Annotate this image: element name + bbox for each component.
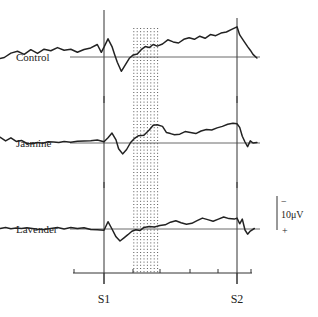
shade-dot bbox=[140, 118, 141, 119]
shade-dot bbox=[144, 150, 145, 151]
shade-dot bbox=[144, 201, 145, 202]
shade-dot bbox=[147, 92, 148, 93]
shade-dot bbox=[154, 127, 155, 128]
shade-dot bbox=[147, 79, 148, 80]
shade-dot bbox=[157, 134, 158, 135]
shade-dot bbox=[140, 98, 141, 99]
shade-dot bbox=[137, 162, 138, 163]
shade-dot bbox=[137, 194, 138, 195]
shade-dot bbox=[140, 172, 141, 173]
shade-dot bbox=[150, 217, 151, 218]
shade-dot bbox=[137, 76, 138, 77]
shade-dot bbox=[147, 220, 148, 221]
shade-dot bbox=[157, 38, 158, 39]
shade-dot bbox=[157, 169, 158, 170]
shade-dot bbox=[133, 207, 134, 208]
shade-dot bbox=[150, 89, 151, 90]
shade-dot bbox=[147, 271, 148, 272]
shade-dot bbox=[140, 66, 141, 67]
shade-dot bbox=[154, 150, 155, 151]
shade-dot bbox=[150, 66, 151, 67]
shade-dot bbox=[150, 246, 151, 247]
shade-dot bbox=[154, 185, 155, 186]
shade-dot bbox=[133, 252, 134, 253]
shade-dot bbox=[157, 89, 158, 90]
shade-dot bbox=[140, 134, 141, 135]
shade-dot bbox=[157, 41, 158, 42]
shade-dot bbox=[144, 214, 145, 215]
shade-dot bbox=[154, 204, 155, 205]
shade-dot bbox=[140, 239, 141, 240]
shade-dot bbox=[144, 172, 145, 173]
shade-dot bbox=[137, 265, 138, 266]
shade-dot bbox=[133, 255, 134, 256]
shade-dot bbox=[147, 169, 148, 170]
shade-dot bbox=[144, 28, 145, 29]
shade-dot bbox=[157, 98, 158, 99]
shade-dot bbox=[157, 95, 158, 96]
shade-dot bbox=[157, 140, 158, 141]
shade-dot bbox=[154, 230, 155, 231]
scale-bar-top-sign: − bbox=[281, 196, 287, 207]
shade-dot bbox=[157, 153, 158, 154]
shade-dot bbox=[144, 204, 145, 205]
shade-dot bbox=[147, 159, 148, 160]
shade-dot bbox=[154, 178, 155, 179]
shade-dot bbox=[147, 223, 148, 224]
shade-dot bbox=[157, 73, 158, 74]
shade-dot bbox=[144, 92, 145, 93]
shade-dot bbox=[150, 34, 151, 35]
shade-dot bbox=[147, 95, 148, 96]
shade-dot bbox=[144, 255, 145, 256]
shade-dot bbox=[154, 233, 155, 234]
shade-dot bbox=[137, 214, 138, 215]
shade-dot bbox=[154, 82, 155, 83]
shade-dot bbox=[147, 66, 148, 67]
shade-dot bbox=[150, 70, 151, 71]
shade-dot bbox=[154, 79, 155, 80]
shade-dot bbox=[147, 268, 148, 269]
shade-dot bbox=[144, 230, 145, 231]
shade-dot bbox=[154, 146, 155, 147]
shade-dot bbox=[157, 249, 158, 250]
shade-dot bbox=[144, 162, 145, 163]
shade-dot bbox=[144, 146, 145, 147]
shade-dot bbox=[154, 102, 155, 103]
shade-dot bbox=[150, 31, 151, 32]
shade-dot bbox=[157, 79, 158, 80]
shade-dot bbox=[144, 153, 145, 154]
shade-dot bbox=[157, 31, 158, 32]
shade-dot bbox=[140, 34, 141, 35]
shade-dot bbox=[137, 246, 138, 247]
shade-dot bbox=[133, 246, 134, 247]
shade-dot bbox=[140, 159, 141, 160]
shade-dot bbox=[140, 111, 141, 112]
shade-dot bbox=[137, 188, 138, 189]
shade-dot bbox=[154, 242, 155, 243]
shade-dot bbox=[133, 137, 134, 138]
shade-dot bbox=[140, 28, 141, 29]
shade-dot bbox=[157, 182, 158, 183]
shade-dot bbox=[157, 92, 158, 93]
shade-dot bbox=[150, 28, 151, 29]
shade-dot bbox=[150, 105, 151, 106]
shade-dot bbox=[154, 105, 155, 106]
shade-dot bbox=[154, 252, 155, 253]
shade-dot bbox=[137, 223, 138, 224]
shade-dot bbox=[140, 137, 141, 138]
shade-dot bbox=[140, 223, 141, 224]
shade-dot bbox=[157, 66, 158, 67]
shade-dot bbox=[154, 258, 155, 259]
shade-dot bbox=[154, 121, 155, 122]
shade-dot bbox=[157, 175, 158, 176]
shade-dot bbox=[140, 191, 141, 192]
shade-dot bbox=[150, 86, 151, 87]
shade-dot bbox=[140, 162, 141, 163]
shade-dot bbox=[147, 252, 148, 253]
shade-dot bbox=[140, 54, 141, 55]
shade-dot bbox=[137, 236, 138, 237]
shade-dot bbox=[137, 217, 138, 218]
shade-dot bbox=[150, 268, 151, 269]
shade-dot bbox=[133, 172, 134, 173]
shade-dot bbox=[154, 114, 155, 115]
